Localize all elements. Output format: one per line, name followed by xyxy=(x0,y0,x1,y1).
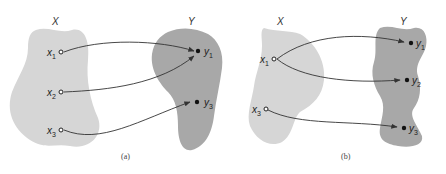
panel-a: X Y x1 x2 x3 y1 y3 (a) xyxy=(10,16,223,161)
caption-a: (a) xyxy=(121,152,130,161)
domain-set-x-b xyxy=(249,28,325,144)
domain-point-x1 xyxy=(59,50,63,54)
codomain-point-y2 xyxy=(405,78,409,82)
domain-label-a: X xyxy=(51,16,59,27)
domain-point-x3 xyxy=(264,107,268,111)
domain-label-b: X xyxy=(276,16,284,27)
domain-point-x1 xyxy=(272,57,276,61)
domain-point-x2 xyxy=(59,90,63,94)
codomain-point-y3 xyxy=(195,100,199,104)
domain-set-x-a xyxy=(10,29,100,147)
caption-b: (b) xyxy=(341,152,351,161)
codomain-label-a: Y xyxy=(188,16,196,27)
mapping-diagram: X Y x1 x2 x3 y1 y3 (a) X Y xyxy=(0,0,446,174)
codomain-point-y3 xyxy=(402,126,406,130)
codomain-set-y-a xyxy=(152,28,223,150)
domain-point-x3 xyxy=(59,128,63,132)
codomain-point-y1 xyxy=(196,49,200,53)
panel-b: X Y x1 x3 y1 y2 y3 (b) xyxy=(249,16,427,161)
codomain-label-b: Y xyxy=(400,16,408,27)
codomain-point-y1 xyxy=(409,41,413,45)
